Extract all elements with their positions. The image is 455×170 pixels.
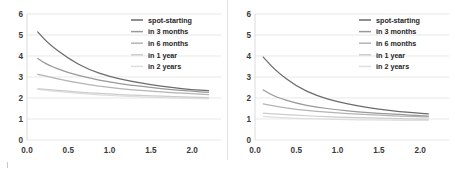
legend-label: in 6 months [376, 39, 416, 48]
y-tick-label: 0 [246, 136, 251, 145]
x-tick-label: 1.0 [104, 146, 116, 155]
legend-label: in 3 months [148, 27, 188, 36]
figure-root: 01234560.00.51.01.52.0spot-startingin 3 … [0, 0, 455, 170]
x-tick-label: 0.5 [63, 146, 75, 155]
y-tick-label: 0 [18, 136, 23, 145]
legend-label: in 2 years [376, 62, 409, 71]
y-tick-label: 6 [246, 10, 251, 19]
y-tick-label: 5 [246, 31, 251, 40]
chart-left: 01234560.00.51.01.52.0spot-startingin 3 … [0, 0, 227, 160]
y-tick-label: 5 [18, 31, 23, 40]
chart-panel-left: 01234560.00.51.01.52.0spot-startingin 3 … [0, 0, 228, 160]
legend-label: spot-starting [376, 16, 420, 25]
y-tick-label: 2 [246, 94, 251, 103]
chart-panel-right: 01234560.00.51.01.52.0spot-startingin 3 … [228, 0, 455, 160]
legend-label: in 1 year [376, 51, 405, 60]
chart-left-svg: 01234560.00.51.01.52.0spot-startingin 3 … [0, 0, 227, 160]
y-tick-label: 4 [246, 52, 251, 61]
y-tick-label: 3 [18, 73, 23, 82]
y-tick-label: 1 [18, 115, 23, 124]
x-tick-label: 0.0 [249, 146, 261, 155]
y-tick-label: 1 [246, 115, 251, 124]
x-tick-label: 1.5 [373, 146, 385, 155]
legend-label: in 1 year [148, 51, 177, 60]
page-footer-mark [7, 162, 8, 168]
y-tick-label: 2 [18, 94, 23, 103]
y-tick-label: 3 [246, 73, 251, 82]
x-tick-label: 0.5 [291, 146, 303, 155]
legend-label: in 2 years [148, 62, 181, 71]
x-tick-label: 2.0 [186, 146, 198, 155]
chart-right-svg: 01234560.00.51.01.52.0spot-startingin 3 … [228, 0, 455, 160]
series-line [38, 59, 209, 93]
y-tick-label: 6 [18, 10, 23, 19]
y-tick-label: 4 [18, 52, 23, 61]
legend-label: spot-starting [148, 16, 192, 25]
legend-label: in 6 months [148, 39, 188, 48]
x-tick-label: 1.5 [145, 146, 157, 155]
x-tick-label: 2.0 [414, 146, 426, 155]
x-tick-label: 0.0 [21, 146, 33, 155]
legend-label: in 3 months [376, 27, 416, 36]
chart-right: 01234560.00.51.01.52.0spot-startingin 3 … [228, 0, 455, 160]
x-tick-label: 1.0 [332, 146, 344, 155]
